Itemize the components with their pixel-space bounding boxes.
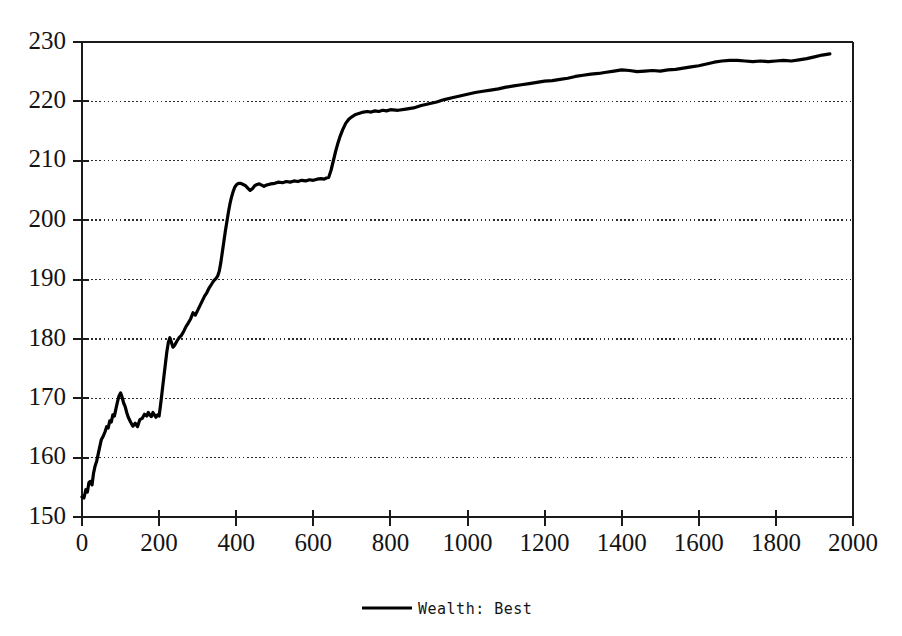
x-tick-label: 1000 (443, 529, 493, 556)
x-tick-label: 0 (76, 529, 89, 556)
x-tick-label: 1600 (674, 529, 724, 556)
y-tick-label: 170 (29, 383, 67, 410)
x-tick-label: 800 (372, 529, 410, 556)
chart-container: 150160170180190200210220230 020040060080… (0, 0, 902, 636)
x-tick-label: 200 (140, 529, 178, 556)
y-tick-label: 230 (29, 27, 67, 54)
y-tick-label: 150 (29, 502, 67, 529)
x-tick-label: 1400 (597, 529, 647, 556)
y-tick-label: 210 (29, 145, 67, 172)
y-tick-label: 200 (29, 205, 67, 232)
x-tick-label: 2000 (828, 529, 878, 556)
legend-label-wealth-best: Wealth: Best (418, 600, 532, 618)
y-tick-label: 220 (29, 86, 67, 113)
x-tick-label: 400 (217, 529, 255, 556)
y-tick-label: 190 (29, 264, 67, 291)
y-tick-label: 180 (29, 324, 67, 351)
x-tick-label: 1200 (520, 529, 570, 556)
line-chart: 150160170180190200210220230 020040060080… (0, 0, 902, 636)
x-tick-label: 1800 (751, 529, 801, 556)
y-tick-label: 160 (29, 442, 67, 469)
x-tick-label: 600 (295, 529, 333, 556)
